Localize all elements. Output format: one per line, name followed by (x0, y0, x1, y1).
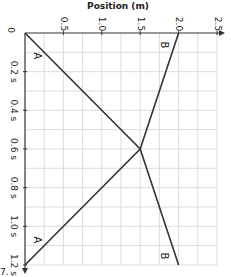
position-axis-title: Position (m) (87, 1, 149, 11)
grid (25, 33, 217, 265)
position-tick-label: 2.0 (174, 17, 184, 32)
time-tick-label: 1.0 s (9, 215, 19, 237)
series-label-b: B (159, 253, 170, 260)
position-tick-label: 1.5 (136, 17, 146, 31)
position-tick-label: 2.5 (213, 17, 223, 31)
series-label-b: B (159, 42, 170, 49)
origin-label: 0 (6, 27, 16, 33)
problem-number: 7. (0, 267, 9, 277)
time-axis-arrow-icon (22, 268, 28, 274)
series-label-a: A (32, 237, 43, 244)
time-tick-label: 0.6 s (9, 138, 19, 160)
position-time-chart: 0.51.01.52.02.500.2 s0.4 s0.6 s0.8 s1.0 … (0, 0, 231, 277)
time-tick-label: 0.4 s (9, 99, 19, 121)
time-tick-label: 0.2 s (9, 61, 19, 83)
position-tick-label: 1.0 (97, 17, 107, 32)
position-tick-label: 0.5 (59, 17, 69, 31)
time-tick-label: 1.2 s (9, 254, 19, 276)
series-label-a: A (32, 53, 43, 60)
time-tick-label: 0.8 s (9, 177, 19, 199)
